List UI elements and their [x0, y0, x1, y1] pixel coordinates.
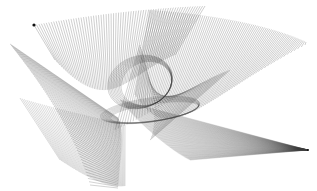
bottom-right-fan-family [120, 100, 308, 160]
endpoint-dot [307, 149, 309, 151]
endpoint-dot [32, 23, 35, 26]
top-fan-family [34, 6, 205, 90]
string-art-canvas [0, 0, 317, 191]
